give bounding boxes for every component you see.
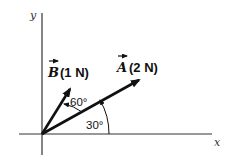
svg-text:B: B	[47, 65, 59, 80]
y-axis-label: y	[29, 9, 37, 22]
angle-label-60: 60°	[70, 96, 87, 108]
vector-diagram: y x B (1 N) A (2 N) 60° 30°	[0, 0, 235, 161]
svg-text:A: A	[115, 60, 127, 75]
svg-text:(2 N): (2 N)	[129, 60, 158, 75]
vector-a-label: A (2 N)	[115, 56, 158, 75]
svg-text:(1 N): (1 N)	[60, 65, 89, 80]
vector-b-label: B (1 N)	[47, 61, 89, 80]
x-axis-label: x	[214, 136, 221, 149]
angle-label-30: 30°	[86, 119, 103, 131]
